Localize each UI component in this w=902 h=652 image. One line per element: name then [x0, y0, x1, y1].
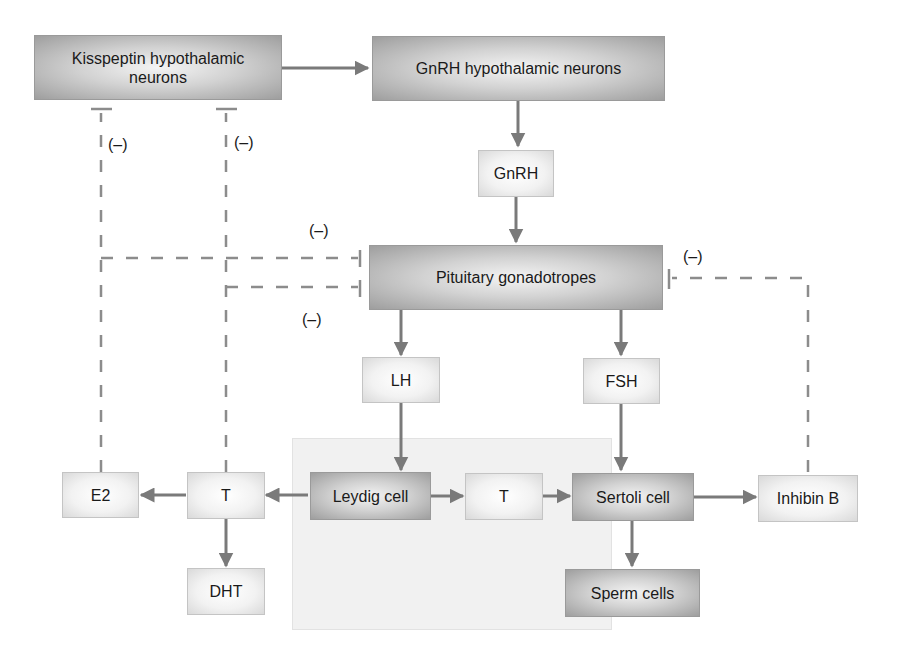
node-t-outer: T	[187, 472, 265, 519]
node-pituitary-gonadotropes: Pituitary gonadotropes	[369, 245, 663, 310]
node-label: Pituitary gonadotropes	[436, 268, 596, 287]
node-label: Sertoli cell	[596, 488, 670, 507]
node-sertoli-cell: Sertoli cell	[572, 473, 694, 521]
node-fsh: FSH	[583, 358, 660, 404]
feedback-inhibin-to-pituitary	[672, 278, 808, 472]
node-label: LH	[391, 371, 411, 390]
node-label: GnRH hypothalamic neurons	[416, 59, 621, 78]
node-label: T	[499, 487, 509, 506]
node-dht: DHT	[187, 568, 265, 615]
inhibition-label-t-kisspeptin: (–)	[234, 134, 254, 152]
inhibition-label-t-pituitary: (–)	[302, 311, 322, 329]
node-label: Kisspeptin hypothalamic neurons	[43, 49, 273, 87]
node-kisspeptin-neurons: Kisspeptin hypothalamic neurons	[34, 35, 282, 100]
node-lh: LH	[362, 357, 440, 403]
node-gnrh-neurons: GnRH hypothalamic neurons	[372, 36, 665, 101]
inhibition-label-inhibin-pituitary: (–)	[683, 248, 703, 266]
node-label: Leydig cell	[333, 487, 409, 506]
node-t-inner: T	[465, 473, 543, 520]
node-inhibin-b: Inhibin B	[758, 475, 858, 522]
node-label: FSH	[606, 372, 638, 391]
node-gnrh: GnRH	[478, 150, 554, 197]
hpg-axis-diagram: Kisspeptin hypothalamic neurons GnRH hyp…	[0, 0, 902, 652]
node-label: DHT	[210, 582, 243, 601]
node-label: GnRH	[494, 164, 538, 183]
node-leydig-cell: Leydig cell	[310, 472, 431, 520]
node-label: E2	[91, 486, 111, 505]
inhibition-label-e2-pituitary: (–)	[309, 222, 329, 240]
node-sperm-cells: Sperm cells	[565, 569, 700, 617]
inhibition-label-e2-kisspeptin: (–)	[108, 136, 128, 154]
node-label: Inhibin B	[777, 489, 839, 508]
node-e2: E2	[62, 472, 139, 518]
node-label: T	[221, 486, 231, 505]
node-label: Sperm cells	[591, 584, 675, 603]
